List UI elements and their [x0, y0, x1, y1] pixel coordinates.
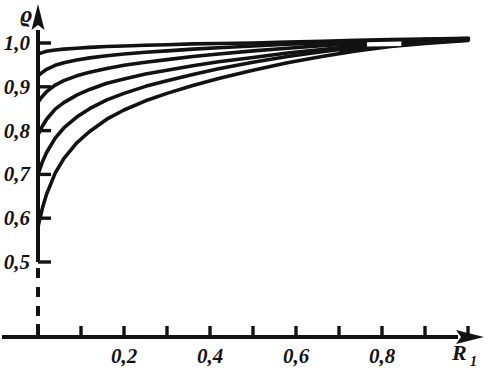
x-axis-tick-label: 0,2	[111, 344, 138, 368]
y-axis-label: ϱ	[20, 2, 33, 27]
y-axis-tick-label: 0,7	[4, 162, 32, 186]
x-axis-label: R	[451, 340, 467, 365]
y-axis-tick-label: 1,0	[4, 31, 31, 55]
figure-container: 0,50,60,70,80,91,00,20,40,60,8 ϱ R 1	[0, 0, 490, 371]
data-curve-5	[38, 40, 468, 174]
curves-group	[38, 37, 470, 227]
y-axis-tick-label: 0,9	[4, 75, 31, 99]
y-axis-tick-label: 0,8	[4, 119, 31, 143]
x-axis-tick-label: 0,4	[197, 344, 223, 368]
y-axis-tick-label: 0,6	[4, 206, 31, 230]
x-axis-tick-label: 0,8	[369, 344, 396, 368]
x-axis-tick-label: 0,6	[283, 344, 310, 368]
chart-canvas: 0,50,60,70,80,91,00,20,40,60,8 ϱ R 1	[0, 0, 490, 371]
axes-group	[2, 4, 484, 344]
y-axis-tick-label: 0,5	[4, 250, 30, 274]
curve-band-gap	[367, 41, 401, 46]
y-axis-arrowhead	[32, 4, 45, 30]
tick-group	[38, 43, 468, 337]
x-axis-label-subscript: 1	[470, 354, 477, 369]
